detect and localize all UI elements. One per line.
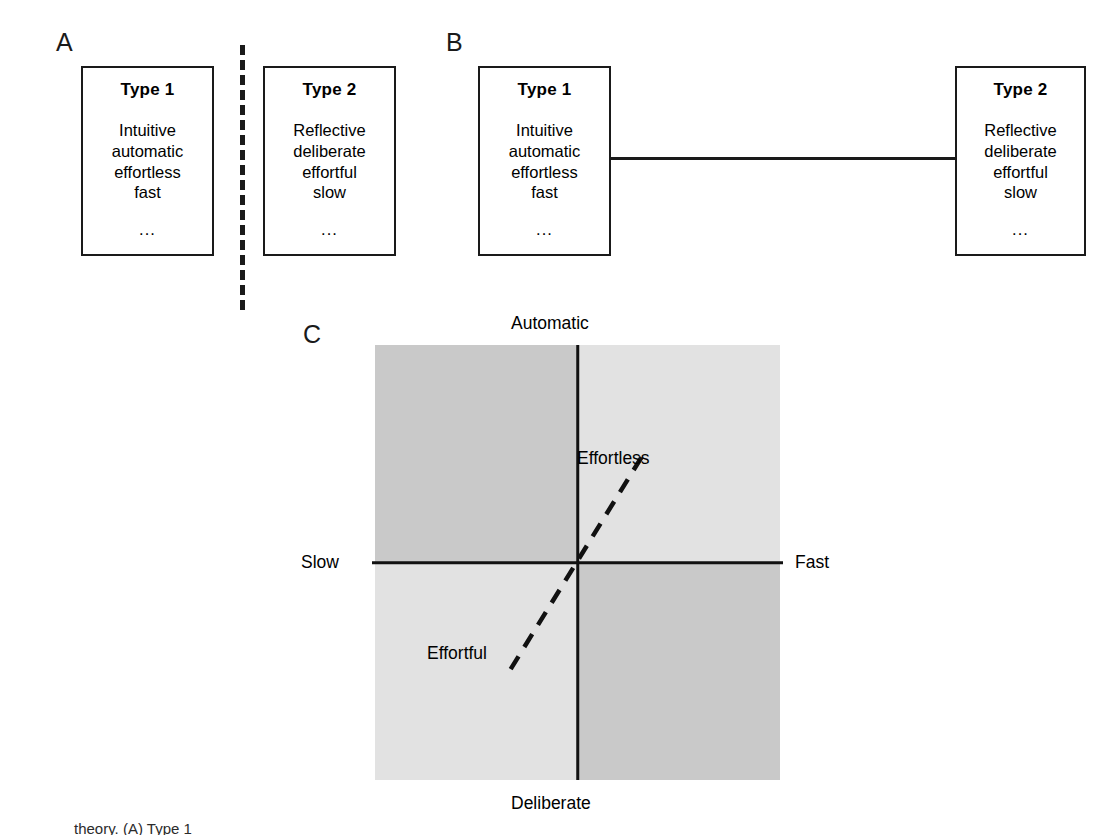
figure-caption-text: theory. (A) Type 1 [74, 821, 192, 835]
box-title: Type 2 [303, 80, 357, 100]
box-attribute: effortless [509, 162, 581, 183]
axis-label-bottom: Deliberate [511, 795, 591, 813]
box-attribute: effortful [984, 162, 1056, 183]
box-attribute: Intuitive [112, 120, 184, 141]
figure-root: A Type 1 Intuitive automatic effortless … [0, 0, 1115, 835]
box-title: Type 1 [121, 80, 175, 100]
annotation-label-effortless: Effortless [577, 450, 650, 468]
diagonal-dashed-line [375, 345, 780, 780]
axis-label-top: Automatic [511, 315, 589, 333]
box-attribute: Reflective [984, 120, 1056, 141]
box-attribute-list: Intuitive automatic effortless fast [112, 120, 184, 203]
box-ellipsis: ... [321, 220, 338, 239]
axis-label-left: Slow [301, 554, 339, 572]
box-attribute-list: Intuitive automatic effortless fast [509, 120, 581, 203]
box-ellipsis: ... [139, 220, 156, 239]
panel-letter-a: A [56, 30, 73, 55]
annotation-label-effortful: Effortful [427, 645, 487, 663]
figure-caption-strip: theory. (A) Type 1 [0, 821, 1115, 835]
panel-b-type1-box: Type 1 Intuitive automatic effortless fa… [478, 66, 611, 256]
box-attribute: deliberate [984, 141, 1056, 162]
panel-b-type2-box: Type 2 Reflective deliberate effortful s… [955, 66, 1086, 256]
box-attribute: deliberate [293, 141, 365, 162]
box-attribute: Intuitive [509, 120, 581, 141]
box-attribute: effortless [112, 162, 184, 183]
box-attribute: automatic [509, 141, 581, 162]
panel-a-type2-box: Type 2 Reflective deliberate effortful s… [263, 66, 396, 256]
box-title: Type 2 [994, 80, 1048, 100]
box-ellipsis: ... [1012, 220, 1029, 239]
box-attribute: automatic [112, 141, 184, 162]
box-attribute: Reflective [293, 120, 365, 141]
box-attribute: slow [984, 182, 1056, 203]
box-ellipsis: ... [536, 220, 553, 239]
box-attribute-list: Reflective deliberate effortful slow [293, 120, 365, 203]
box-attribute: fast [509, 182, 581, 203]
panel-letter-b: B [446, 30, 463, 55]
box-attribute: slow [293, 182, 365, 203]
axis-label-right: Fast [795, 554, 829, 572]
box-attribute: fast [112, 182, 184, 203]
panel-a-type1-box: Type 1 Intuitive automatic effortless fa… [81, 66, 214, 256]
box-attribute-list: Reflective deliberate effortful slow [984, 120, 1056, 203]
quadrant-chart: Effortless Effortful [375, 345, 780, 780]
box-attribute: effortful [293, 162, 365, 183]
box-title: Type 1 [518, 80, 572, 100]
panel-letter-c: C [303, 322, 321, 347]
panel-b-connector-line [609, 157, 957, 160]
panel-a-dashed-divider [240, 45, 245, 310]
